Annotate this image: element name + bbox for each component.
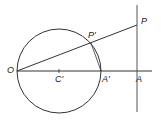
label-o: O: [7, 66, 14, 75]
label-a: A: [136, 75, 142, 84]
inversion-diagram: [0, 0, 161, 121]
ray-o-to-p: [17, 25, 137, 71]
label-p-prime: P': [88, 31, 96, 40]
chord-p-prime-a-prime: [91, 43, 101, 71]
label-c-prime: C': [55, 75, 63, 84]
label-a-prime: A': [102, 75, 110, 84]
label-p: P: [141, 17, 147, 26]
